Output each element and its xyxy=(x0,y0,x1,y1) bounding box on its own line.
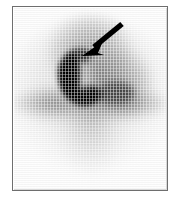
crescent-hot-focus xyxy=(52,43,113,111)
background-halo-blob xyxy=(14,18,166,168)
screenshot-root: Grayscale planar nuclear medicine scan s… xyxy=(0,0,180,204)
scan-image-frame xyxy=(12,6,168,191)
right-hot-pixel-cluster xyxy=(98,82,134,104)
transverse-activity-band xyxy=(14,86,166,122)
inferior-activity-plume xyxy=(58,104,124,176)
superior-uptake-blob xyxy=(48,14,132,88)
arrow-icon xyxy=(82,24,122,56)
crescent-focus-tail xyxy=(72,86,102,102)
activity-band-left-wing xyxy=(16,90,74,116)
activity-band-right-wing xyxy=(106,90,166,116)
arrow-shaft-line xyxy=(94,24,122,47)
right-lobe-uptake-blob xyxy=(88,48,152,114)
arrow-head-triangle xyxy=(82,41,104,56)
scan-line-grain xyxy=(14,8,166,189)
annotation-arrow-overlay xyxy=(14,8,166,189)
scan-image-canvas xyxy=(14,8,166,189)
acquisition-matrix-grid xyxy=(14,8,166,189)
crescent-focus-core xyxy=(62,54,80,98)
